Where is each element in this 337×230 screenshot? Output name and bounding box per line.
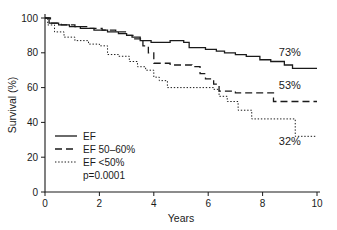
survival-chart-figure: 020406080100 0246810 Survival (%) Years … (0, 0, 337, 230)
y-tick-label: 20 (27, 152, 39, 163)
axes-group: 020406080100 0246810 (21, 13, 323, 210)
survival-curve-solid (45, 18, 317, 68)
y-axis-title: Survival (%) (6, 77, 18, 134)
x-axis-ticks (45, 192, 317, 196)
x-axis-title: Years (168, 212, 194, 224)
legend-item-label: EF (83, 131, 96, 142)
survival-curve-dashed (45, 18, 317, 102)
y-axis-ticks (41, 18, 45, 192)
legend-item-label: EF 50–60% (83, 144, 135, 155)
x-axis-tick-labels: 0246810 (42, 198, 323, 209)
endpoint-label: 32% (279, 135, 301, 147)
legend: EFEF 50–60%EF <50%p=0.0001 (55, 131, 135, 181)
y-tick-label: 100 (21, 13, 38, 24)
endpoint-label: 73% (279, 46, 301, 58)
x-tick-label: 0 (42, 198, 48, 209)
pvalue-label: p=0.0001 (83, 170, 125, 181)
x-tick-label: 10 (311, 198, 323, 209)
y-tick-label: 60 (27, 82, 39, 93)
x-tick-label: 4 (151, 198, 157, 209)
survival-curves-group (45, 18, 317, 136)
legend-item-label: EF <50% (83, 157, 125, 168)
kaplan-meier-plot: 020406080100 0246810 Survival (%) Years … (0, 0, 337, 230)
x-tick-label: 6 (205, 198, 211, 209)
x-tick-label: 2 (97, 198, 103, 209)
x-tick-label: 8 (260, 198, 266, 209)
survival-curve-dotted (45, 18, 317, 136)
endpoint-label: 53% (279, 79, 301, 91)
y-tick-label: 40 (27, 117, 39, 128)
y-tick-label: 80 (27, 47, 39, 58)
y-tick-label: 0 (32, 187, 38, 198)
y-axis-tick-labels: 020406080100 (21, 13, 38, 198)
